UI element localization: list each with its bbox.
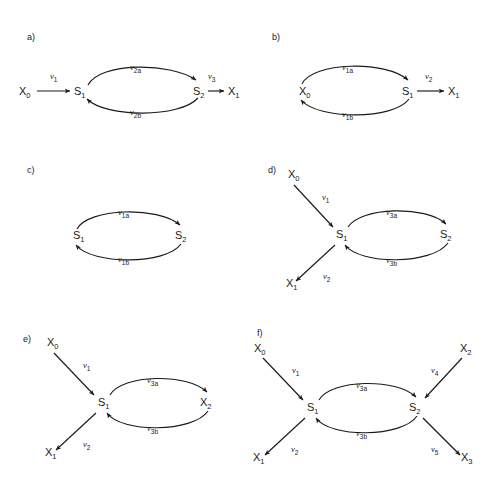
node-S1: S1 <box>74 85 86 100</box>
edge-X0-S1 <box>263 358 303 400</box>
node-X0: X0 <box>299 85 311 100</box>
edge-S2-S1-bottom <box>345 243 448 260</box>
edge-X2-S1-bottom <box>107 411 208 428</box>
node-X0: X0 <box>47 336 59 351</box>
rate-label-v3b: v3b <box>356 428 367 440</box>
panel-label-d: d) <box>268 165 276 175</box>
edge-S1-X1 <box>265 418 305 455</box>
panel-d: d) X0 S1 S2 X1 v1 v2 v3a v3b <box>250 155 497 305</box>
rate-label-v3a: v3a <box>386 207 397 219</box>
node-X2: X2 <box>460 342 472 357</box>
rate-label-v1: v1 <box>292 365 300 377</box>
node-S1: S1 <box>402 85 414 100</box>
panel-a: a) X0 S1 S2 X1 v1 v2a v2b v3 <box>0 0 250 150</box>
rate-label-v1b: v1b <box>118 254 129 266</box>
rate-label-v1: v1 <box>50 71 58 83</box>
panel-label-e: e) <box>23 334 31 344</box>
node-S1: S1 <box>73 229 85 244</box>
node-S2: S2 <box>193 85 205 100</box>
node-X1: X1 <box>253 451 265 466</box>
node-S1: S1 <box>336 228 348 243</box>
panel-b: b) X0 S1 X1 v1a v1b v2 <box>250 0 497 150</box>
rate-label-v3b: v3b <box>386 255 397 267</box>
edge-S2-X3 <box>423 418 460 455</box>
panel-f: f) X0 S1 S2 X1 X2 X3 v1 v2 v3a v3b v4 v5 <box>245 310 497 485</box>
node-X1: X1 <box>228 85 240 100</box>
rate-label-v1: v1 <box>83 360 91 372</box>
rate-label-v2b: v2b <box>130 107 141 119</box>
edge-S2-S1-bottom <box>87 98 198 113</box>
node-X1: X1 <box>448 85 460 100</box>
panel-label-c: c) <box>27 165 35 175</box>
edge-S2-S1-bottom <box>316 416 417 433</box>
panel-e: e) X0 S1 X2 X1 v1 v2 v3a v3b <box>0 310 250 485</box>
panel-label-a: a) <box>27 32 35 42</box>
node-X0: X0 <box>19 85 31 100</box>
panel-label-b: b) <box>272 32 280 42</box>
rate-label-v2: v2 <box>83 439 91 451</box>
edge-X0-S1 <box>54 353 94 395</box>
node-S2: S2 <box>175 229 187 244</box>
rate-label-v2: v2 <box>425 71 433 83</box>
node-S2: S2 <box>409 401 421 416</box>
edge-S1-X0-bottom <box>301 99 409 115</box>
edge-S1-S2-top <box>319 383 416 400</box>
edge-X0-S1-top <box>302 66 408 84</box>
rate-label-v1b: v1b <box>342 109 353 121</box>
edge-X2-S2 <box>425 358 462 398</box>
rate-label-v5: v5 <box>431 444 439 456</box>
reaction-scheme-figure: a) X0 S1 S2 X1 v1 v2a v2b v3 b) X0 S1 X1… <box>0 0 497 485</box>
rate-label-v2: v2 <box>291 444 299 456</box>
rate-label-v1a: v1a <box>342 62 353 74</box>
node-S2: S2 <box>440 228 452 243</box>
rate-label-v3a: v3a <box>356 380 367 392</box>
edge-S1-X2-top <box>110 378 207 395</box>
node-X0: X0 <box>254 342 266 357</box>
rate-label-v3a: v3a <box>147 375 158 387</box>
edge-S2-S1-bottom <box>76 244 181 260</box>
node-X1: X1 <box>45 446 57 461</box>
node-X1: X1 <box>286 277 298 292</box>
panel-label-f: f) <box>257 328 263 338</box>
rate-label-v2a: v2a <box>130 62 141 74</box>
node-X3: X3 <box>461 451 473 466</box>
panel-c: c) S1 S2 v1a v1b <box>0 155 250 300</box>
rate-label-v3b: v3b <box>147 423 158 435</box>
node-X2: X2 <box>200 396 212 411</box>
rate-label-v4: v4 <box>431 365 439 377</box>
node-S1: S1 <box>307 401 319 416</box>
rate-label-v1: v1 <box>322 192 330 204</box>
rate-label-v3: v3 <box>208 71 216 83</box>
rate-label-v2: v2 <box>323 271 331 283</box>
rate-label-v1a: v1a <box>118 207 129 219</box>
node-S1: S1 <box>98 396 110 411</box>
edge-S1-S2-top <box>88 67 196 85</box>
node-X0: X0 <box>288 168 300 183</box>
edge-X0-S1 <box>294 185 333 227</box>
